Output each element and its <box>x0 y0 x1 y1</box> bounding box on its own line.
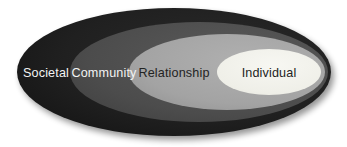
ring-label-individual: Individual <box>242 66 297 80</box>
social-ecological-model-diagram: Societal Community Relationship Individu… <box>0 0 347 147</box>
nested-ellipse-canvas: Societal Community Relationship Individu… <box>0 0 347 147</box>
ring-label-relationship: Relationship <box>138 66 209 80</box>
ring-label-societal: Societal <box>23 66 69 80</box>
ring-label-community: Community <box>71 66 137 80</box>
